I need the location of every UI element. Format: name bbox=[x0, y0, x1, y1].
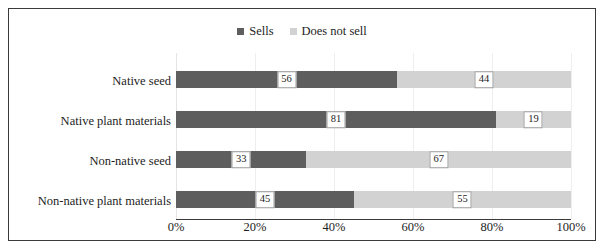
data-label-does-not-sell: 67 bbox=[429, 151, 448, 169]
chart-frame: Sells Does not sell Native seed Native p… bbox=[8, 8, 596, 241]
legend-label-sells: Sells bbox=[249, 25, 273, 38]
bar-segment-does-not-sell[interactable]: 44 bbox=[397, 71, 571, 88]
data-label-does-not-sell: 55 bbox=[453, 191, 472, 209]
chart-legend: Sells Does not sell bbox=[9, 25, 595, 38]
data-label-does-not-sell: 19 bbox=[524, 111, 543, 129]
data-label-sells: 45 bbox=[255, 191, 274, 209]
bar-segment-sells[interactable]: 45 bbox=[176, 191, 354, 208]
bar-segment-does-not-sell[interactable]: 67 bbox=[306, 151, 571, 168]
bar-segment-sells[interactable]: 33 bbox=[176, 151, 306, 168]
plot-wrapper: Native seed Native plant materials Non-n… bbox=[9, 53, 595, 219]
bar-segment-sells[interactable]: 81 bbox=[176, 111, 496, 128]
legend-entry-does-not-sell[interactable]: Does not sell bbox=[290, 25, 367, 38]
category-label-non-native-plant-materials: Non-native plant materials bbox=[38, 195, 171, 208]
x-axis-line bbox=[176, 219, 571, 220]
category-label-native-plant-materials: Native plant materials bbox=[61, 115, 171, 128]
data-label-sells: 56 bbox=[277, 71, 296, 89]
bar-row: 33 67 bbox=[176, 151, 571, 168]
category-label-native-seed: Native seed bbox=[112, 75, 171, 88]
x-tick-label-100: 100% bbox=[556, 221, 585, 234]
category-label-non-native-seed: Non-native seed bbox=[89, 155, 171, 168]
gridline-100 bbox=[571, 53, 572, 219]
plot-area: 56 44 81 19 33 67 bbox=[176, 53, 571, 219]
legend-entry-sells[interactable]: Sells bbox=[237, 25, 273, 38]
bar-row: 56 44 bbox=[176, 71, 571, 88]
x-axis-ticks: 0% 20% 40% 60% 80% 100% bbox=[176, 221, 571, 241]
bar-row: 45 55 bbox=[176, 191, 571, 208]
x-tick-label-80: 80% bbox=[481, 221, 504, 234]
bar-segment-does-not-sell[interactable]: 19 bbox=[496, 111, 571, 128]
bar-row: 81 19 bbox=[176, 111, 571, 128]
bar-segment-sells[interactable]: 56 bbox=[176, 71, 397, 88]
legend-swatch-sells bbox=[237, 28, 244, 35]
x-tick-label-60: 60% bbox=[402, 221, 425, 234]
data-label-sells: 33 bbox=[232, 151, 251, 169]
category-axis: Native seed Native plant materials Non-n… bbox=[9, 53, 176, 219]
x-tick-label-20: 20% bbox=[244, 221, 267, 234]
bar-segment-does-not-sell[interactable]: 55 bbox=[354, 191, 571, 208]
legend-label-does-not-sell: Does not sell bbox=[302, 25, 367, 38]
data-label-does-not-sell: 44 bbox=[475, 71, 494, 89]
x-tick-label-0: 0% bbox=[168, 221, 185, 234]
legend-swatch-does-not-sell bbox=[290, 28, 297, 35]
data-label-sells: 81 bbox=[326, 111, 345, 129]
x-tick-label-40: 40% bbox=[323, 221, 346, 234]
